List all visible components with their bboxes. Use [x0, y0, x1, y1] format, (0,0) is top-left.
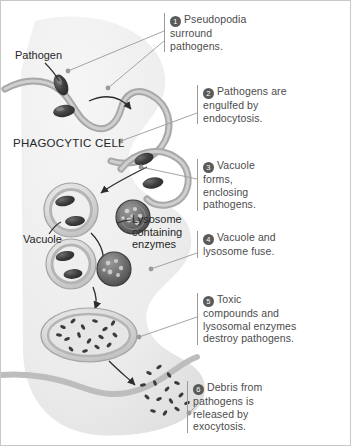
- step-callout-1: 1Pseudopodia surround pathogens.: [164, 13, 260, 52]
- step-5-label: Toxic compounds and lysosomal enzymes de…: [203, 293, 296, 344]
- step-1-label: Pseudopodia surround pathogens.: [170, 13, 246, 52]
- step-1-badge: 1: [170, 16, 181, 27]
- step-3-badge: 3: [203, 162, 214, 173]
- step-callout-6: 6Debris from pathogens is released by ex…: [187, 381, 295, 433]
- digestive-vacuole: [41, 308, 137, 362]
- label-pathogen: Pathogen: [15, 49, 62, 62]
- label-lysosome: Lysosome containing enzymes: [132, 213, 198, 251]
- step-5-text: 5Toxic compounds and lysosomal enzymes d…: [203, 293, 297, 345]
- step-2-text: 2Pathogens are engulfed by endocytosis.: [203, 85, 301, 124]
- step-2-label: Pathogens are engulfed by endocytosis.: [203, 85, 287, 124]
- label-vacuole: Vacuole: [23, 233, 62, 246]
- step-2-badge: 2: [203, 88, 214, 99]
- step-4-text: 4Vacuole and lysosome fuse.: [203, 231, 289, 258]
- step-4-badge: 4: [203, 234, 214, 245]
- phagocytosis-diagram: Pathogen PHAGOCYTIC CELL Vacuole Lysosom…: [0, 0, 351, 446]
- step-6-text: 6Debris from pathogens is released by ex…: [193, 381, 295, 433]
- step-callout-2: 2Pathogens are engulfed by endocytosis.: [197, 85, 301, 124]
- step-4-label: Vacuole and lysosome fuse.: [203, 231, 276, 257]
- step-callout-3: 3Vacuole forms, enclosing pathogens.: [197, 159, 275, 211]
- step-3-text: 3Vacuole forms, enclosing pathogens.: [203, 159, 275, 211]
- label-phagocytic-cell: PHAGOCYTIC CELL: [13, 137, 125, 150]
- step-1-text: 1Pseudopodia surround pathogens.: [170, 13, 260, 52]
- step-callout-5: 5Toxic compounds and lysosomal enzymes d…: [197, 293, 297, 345]
- step-callout-4: 4Vacuole and lysosome fuse.: [197, 231, 289, 258]
- step-6-badge: 6: [193, 384, 204, 395]
- step-5-badge: 5: [203, 296, 214, 307]
